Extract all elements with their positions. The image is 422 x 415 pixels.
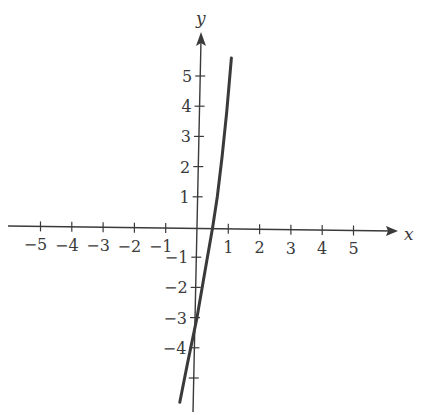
x-tick-label: 1 (223, 238, 233, 257)
y-tick-label: −1 (165, 248, 189, 267)
y-axis: 54321−1−2−3−4 (163, 32, 206, 412)
x-tick-label: 4 (317, 239, 327, 258)
y-tick-label: −4 (163, 339, 187, 358)
chart: −5−4−3−2−112345 54321−1−2−3−4 x y (0, 0, 422, 415)
x-tick-label: 3 (286, 239, 296, 258)
y-tick-label: 5 (182, 67, 192, 86)
y-axis-label: y (195, 8, 206, 28)
x-axis: −5−4−3−2−112345 (8, 221, 398, 258)
x-tick-label: 2 (255, 238, 265, 257)
x-tick-label: −4 (55, 236, 79, 255)
x-tick-label: 5 (348, 239, 358, 258)
y-tick-label: 4 (181, 97, 191, 116)
x-tick-label: −5 (24, 235, 48, 254)
y-tick-label: −3 (163, 309, 187, 328)
x-tick-label: −2 (118, 237, 142, 256)
y-tick-label: 1 (179, 188, 189, 207)
y-tick-label: 2 (180, 158, 190, 177)
y-tick-label: 3 (181, 127, 191, 146)
x-tick-label: −3 (86, 236, 110, 255)
y-tick-label: −2 (164, 278, 188, 297)
x-axis-label: x (404, 224, 414, 244)
